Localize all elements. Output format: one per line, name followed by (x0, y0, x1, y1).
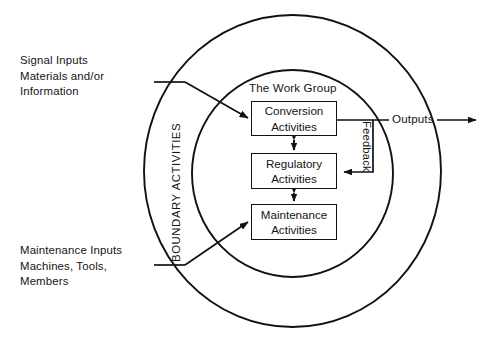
maintenance-input-arrow (185, 222, 248, 265)
work-group-system-diagram: Signal Inputs Materials and/or Informati… (0, 0, 480, 347)
maintenance-inputs-label: Maintenance Inputs Machines, Tools, Memb… (20, 243, 122, 290)
outputs-label: Outputs (392, 111, 434, 127)
feedback-label: Feedback (358, 121, 374, 172)
conversion-activities-line-2: Activities (271, 119, 317, 134)
maintenance-activities-box: Maintenance Activities (251, 204, 337, 240)
signal-inputs-label: Signal Inputs Materials and/or Informati… (20, 53, 104, 100)
conversion-activities-box: Conversion Activities (251, 101, 337, 136)
work-group-title: The Work Group (249, 80, 337, 96)
conversion-activities-line-1: Conversion (265, 103, 324, 118)
signal-input-arrow (185, 82, 248, 118)
regulatory-activities-line-2: Activities (271, 171, 317, 186)
regulatory-activities-line-1: Regulatory (266, 156, 322, 171)
boundary-activities-label: BOUNDARY ACTIVITIES (169, 123, 185, 262)
maintenance-activities-line-1: Maintenance (261, 207, 327, 222)
maintenance-activities-line-2: Activities (271, 222, 317, 237)
regulatory-activities-box: Regulatory Activities (251, 153, 337, 189)
